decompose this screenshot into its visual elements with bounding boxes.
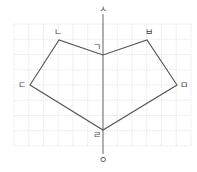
diagram-canvas [0, 0, 197, 172]
vertex-label: ㄹ [93, 131, 101, 140]
vertex-label: ㅂ [145, 28, 153, 37]
vertex-label: ㅁ [180, 81, 188, 90]
axis-bottom-label: ㅇ [99, 156, 107, 165]
vertex-label: ㄱ [93, 43, 101, 52]
axis-top-label: ㅅ [99, 5, 107, 14]
figure-diagram: ㅅ ㅇ ㄱㄴㄷㄹㅁㅂ [0, 0, 197, 172]
vertex-label: ㄴ [54, 28, 62, 37]
vertex-label: ㄷ [18, 81, 26, 90]
